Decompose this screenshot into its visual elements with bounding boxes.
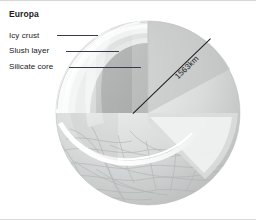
callout-label-silicate-core: Silicate core: [9, 62, 53, 71]
callout-label-slush-layer: Slush layer: [9, 46, 49, 55]
callout-label-icy-crust: Icy crust: [9, 31, 39, 40]
leader-line-icy-crust: [57, 35, 98, 36]
leader-line-slush-layer: [66, 51, 119, 52]
leader-line-silicate-core: [69, 67, 141, 68]
figure-title: Europa: [9, 9, 39, 19]
figure-canvas: Europa Icy crust Slush layer Silicate co…: [0, 0, 256, 220]
